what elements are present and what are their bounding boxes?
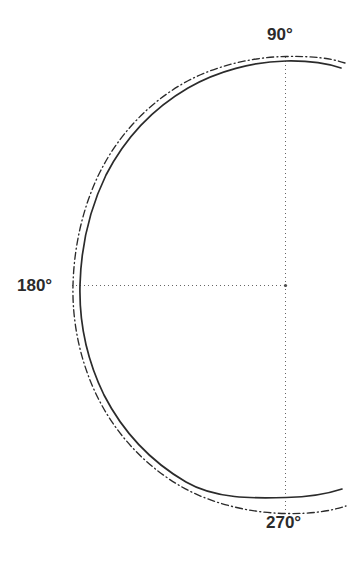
dash-dot-curve <box>73 56 346 513</box>
polar-plot-figure: 90° 180° 270° <box>0 0 357 566</box>
angle-label-180: 180° <box>17 277 52 294</box>
plot-canvas <box>0 0 357 566</box>
grid-axes <box>72 57 287 512</box>
angle-label-90: 90° <box>267 26 293 43</box>
origin-marker <box>284 284 287 287</box>
angle-label-270: 270° <box>266 514 301 531</box>
